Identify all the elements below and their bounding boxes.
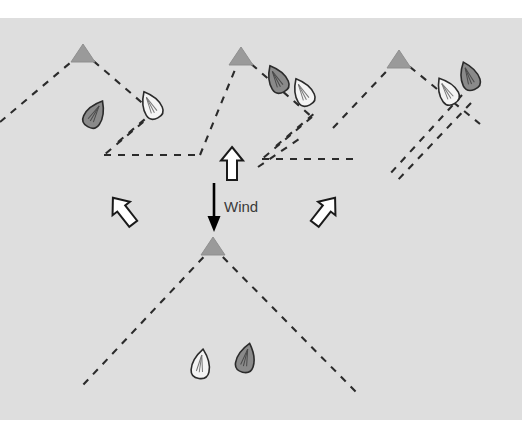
wind-label: Wind xyxy=(224,198,258,215)
sailing-tactics-diagram: Wind xyxy=(0,0,522,447)
diagram-canvas: Wind xyxy=(0,0,522,447)
diagram-background xyxy=(0,18,522,420)
